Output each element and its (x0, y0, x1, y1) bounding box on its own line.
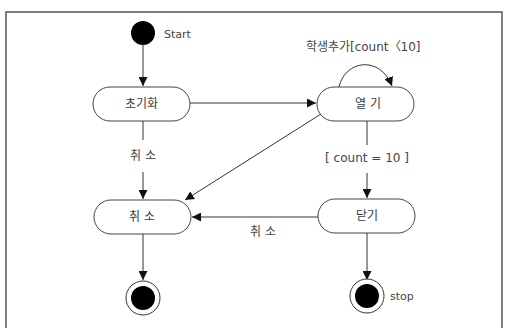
svg-text:닫기: 닫기 (356, 209, 378, 223)
state-diagram: Start 초기화 열 기 취 소 닫기 학생추가[count〈10] 취 소 … (0, 0, 508, 328)
state-init: 초기화 (93, 87, 190, 121)
state-cancel: 취 소 (94, 200, 191, 234)
final-node-left (126, 281, 160, 315)
self-loop-label: 학생추가[count〈10] (306, 40, 421, 54)
close-to-cancel-label: 취 소 (250, 225, 276, 239)
edge-open-to-cancel (185, 114, 321, 200)
start-label: Start (164, 28, 192, 41)
state-close: 닫기 (318, 199, 415, 233)
init-to-cancel-label: 취 소 (130, 149, 156, 163)
state-open: 열 기 (317, 87, 414, 121)
svg-text:초기화: 초기화 (125, 97, 158, 111)
open-to-close-label: [ count = 10 ] (325, 151, 409, 165)
stop-label: stop (390, 290, 414, 303)
svg-text:취 소: 취 소 (129, 210, 155, 224)
svg-text:열 기: 열 기 (355, 97, 381, 111)
edge-open-self-loop (339, 65, 392, 87)
final-node-right (350, 279, 384, 313)
diagram-frame (6, 12, 502, 328)
initial-node (131, 21, 155, 45)
